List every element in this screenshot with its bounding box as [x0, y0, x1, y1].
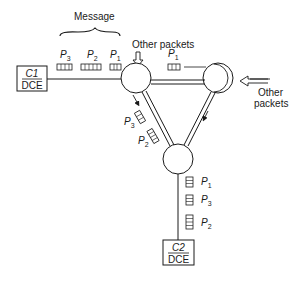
node-b: [203, 63, 233, 93]
output-packet-p2: [186, 215, 193, 229]
destination-dce-box: C2 DCE: [163, 240, 194, 265]
output-packet-p3: [186, 195, 193, 205]
message-packet-p2-label: P2: [87, 49, 98, 62]
output-packet-p2-label: P2: [201, 217, 212, 230]
packet-switching-diagram: Message C1 DCE P3 P2 P1 Other packets: [0, 0, 298, 285]
other-packets-right-label-line2: packets: [254, 98, 288, 109]
top-link-packet-p1: [168, 64, 180, 70]
source-label-top: C1: [26, 68, 39, 79]
direction-arrow-b-c-icon: [204, 111, 208, 119]
direction-arrow-a-c-icon: [133, 95, 138, 104]
source-dce-box: C1 DCE: [17, 66, 47, 91]
output-packet-p1-label: P1: [201, 176, 212, 189]
diagonal-packet-p2-label: P2: [138, 135, 149, 148]
destination-label-top: C2: [172, 242, 185, 253]
link-a-c: [142, 91, 174, 146]
message-brace: [60, 28, 120, 36]
message-packet-p1: [110, 64, 121, 70]
source-label-bottom: DCE: [21, 80, 42, 91]
other-packets-right-label-line1: Other: [258, 87, 284, 98]
message-packet-p3: [57, 64, 72, 70]
output-packet-p1: [186, 177, 193, 187]
diagonal-packet-p2: [147, 128, 159, 143]
other-packets-right-arrow-icon: [240, 76, 268, 86]
destination-label-bottom: DCE: [168, 254, 189, 265]
message-packet-p1-label: P1: [110, 49, 121, 62]
node-c: [163, 144, 193, 174]
output-packet-p3-label: P3: [201, 194, 212, 207]
diagonal-packet-p3-label: P3: [124, 116, 135, 129]
diagonal-packet-p3: [134, 110, 145, 123]
node-a: [121, 63, 151, 93]
message-packet-p2: [81, 64, 101, 70]
message-packet-p3-label: P3: [60, 49, 71, 62]
message-label: Message: [74, 11, 115, 22]
link-a-b: [151, 80, 205, 84]
link-b-c: [184, 92, 215, 146]
other-packets-top-label: Other packets: [132, 39, 194, 50]
